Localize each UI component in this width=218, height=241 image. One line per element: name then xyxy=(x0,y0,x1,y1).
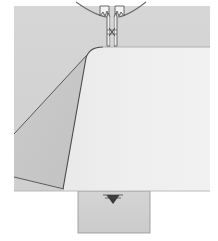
fixture-left-stem xyxy=(107,13,110,46)
core-light-region xyxy=(63,47,210,191)
diagram-canvas xyxy=(0,0,218,241)
technical-drawing xyxy=(0,0,218,241)
fixture-right-stem xyxy=(114,13,117,46)
